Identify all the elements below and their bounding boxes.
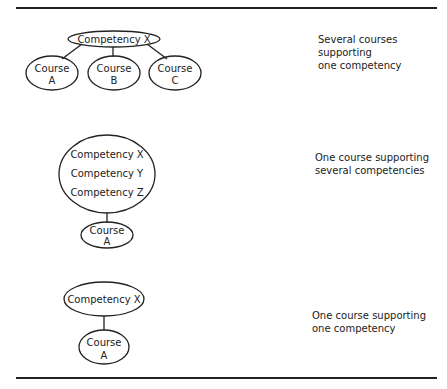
caption-line: supporting (318, 46, 401, 59)
caption-several-competencies: One course supporting several competenci… (315, 151, 429, 177)
caption-one-competency: One course supporting one competency (312, 309, 426, 335)
connector-x-a (62, 44, 82, 59)
connector-x-c (147, 44, 167, 59)
course-a-letter-3: A (101, 350, 108, 361)
course-a-label: Course (35, 63, 70, 74)
competency-x-label-3: Competency X (67, 294, 140, 305)
caption-line: One course supporting (315, 151, 429, 164)
course-a-letter: A (49, 75, 56, 86)
competency-y-label: Competency Y (71, 168, 144, 179)
caption-line: Several courses (318, 33, 401, 46)
competency-x-label-2: Competency X (70, 149, 143, 160)
course-c-letter: C (172, 75, 179, 86)
course-b-letter: B (111, 75, 118, 86)
competency-x-label: Competency X (77, 34, 150, 45)
course-a-label-2: Course (90, 225, 125, 236)
caption-several-courses: Several courses supporting one competenc… (318, 33, 401, 72)
caption-line: one competency (318, 59, 401, 72)
course-a-letter-2: A (104, 236, 111, 247)
competency-z-label: Competency Z (70, 187, 143, 198)
caption-line: one competency (312, 322, 426, 335)
course-c-label: Course (158, 63, 193, 74)
caption-line: several competencies (315, 164, 429, 177)
caption-line: One course supporting (312, 309, 426, 322)
course-a-label-3: Course (87, 337, 122, 348)
course-b-label: Course (97, 63, 132, 74)
